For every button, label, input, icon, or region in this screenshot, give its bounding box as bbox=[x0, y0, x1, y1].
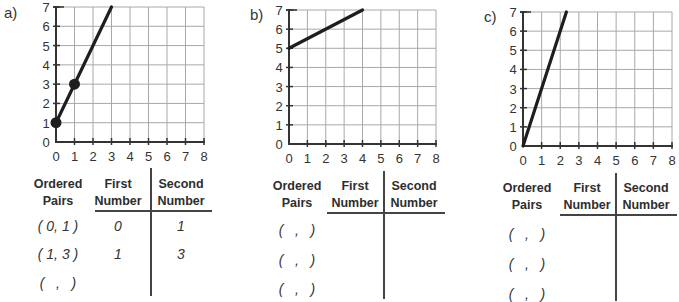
table-column-divider bbox=[150, 168, 152, 296]
y-tick-label: 3 bbox=[509, 82, 516, 97]
graph-label: c) bbox=[484, 8, 497, 25]
second-number-cell: 3 bbox=[161, 246, 201, 262]
x-tick-label: 6 bbox=[631, 153, 638, 168]
table-header-rule bbox=[560, 214, 677, 216]
ordered-pair-cell: ( , ) bbox=[487, 286, 567, 302]
table-header-rule bbox=[327, 212, 445, 214]
y-tick-label: 5 bbox=[509, 43, 516, 58]
first-number-cell: 0 bbox=[98, 218, 138, 234]
x-tick-label: 0 bbox=[519, 153, 526, 168]
ordered-pair-cell: ( 0, 1 ) bbox=[18, 218, 98, 234]
ordered-pair-cell: ( , ) bbox=[257, 252, 337, 268]
ordered-pair-cell: ( , ) bbox=[487, 256, 567, 272]
table-column-divider bbox=[383, 171, 385, 299]
x-tick-label: 1 bbox=[538, 153, 545, 168]
ordered-pair-cell: ( , ) bbox=[257, 222, 337, 238]
ordered-pair-cell: ( , ) bbox=[18, 275, 98, 291]
x-tick-label: 5 bbox=[613, 153, 620, 168]
x-tick-label: 4 bbox=[594, 153, 601, 168]
header-second-number: SecondNumber bbox=[141, 176, 221, 210]
second-number-cell: 1 bbox=[161, 218, 201, 234]
y-tick-label: 2 bbox=[509, 101, 516, 116]
first-number-cell: 1 bbox=[98, 246, 138, 262]
y-tick-label: 0 bbox=[509, 139, 516, 154]
y-tick-label: 4 bbox=[509, 62, 516, 77]
x-tick-label: 3 bbox=[575, 153, 582, 168]
ordered-pair-cell: ( 1, 3 ) bbox=[18, 246, 98, 262]
x-tick-label: 8 bbox=[668, 153, 675, 168]
x-tick-label: 7 bbox=[650, 153, 657, 168]
y-tick-label: 1 bbox=[509, 120, 516, 135]
header-second-number: SecondNumber bbox=[374, 178, 454, 212]
table-column-divider bbox=[615, 173, 617, 301]
table-header-rule bbox=[95, 210, 212, 212]
y-tick-label: 7 bbox=[509, 5, 516, 20]
ordered-pair-cell: ( , ) bbox=[257, 281, 337, 297]
y-tick-label: 6 bbox=[509, 24, 516, 39]
x-tick-label: 2 bbox=[557, 153, 564, 168]
ordered-pair-cell: ( , ) bbox=[487, 226, 567, 242]
